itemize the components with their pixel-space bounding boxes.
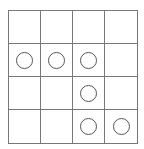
board-cell-r3-c3[interactable] [105,110,137,143]
circle-piece-icon [16,52,33,69]
board-cell-r1-c3[interactable] [105,44,137,77]
game-board [8,10,138,144]
board-cell-r2-c0[interactable] [9,77,41,110]
board-cell-r3-c0[interactable] [9,110,41,143]
board-cell-r0-c3[interactable] [105,11,137,44]
board-cell-r2-c2[interactable] [73,77,105,110]
board-cell-r1-c1[interactable] [41,44,73,77]
circle-piece-icon [80,52,97,69]
board-cell-r1-c2[interactable] [73,44,105,77]
board-cell-r0-c1[interactable] [41,11,73,44]
board-cell-r2-c3[interactable] [105,77,137,110]
board-cell-r3-c2[interactable] [73,110,105,143]
board-cell-r1-c0[interactable] [9,44,41,77]
board-cell-r0-c2[interactable] [73,11,105,44]
board-cell-r3-c1[interactable] [41,110,73,143]
circle-piece-icon [113,118,130,135]
circle-piece-icon [80,118,97,135]
board-cell-r2-c1[interactable] [41,77,73,110]
circle-piece-icon [80,85,97,102]
circle-piece-icon [48,52,65,69]
board-cell-r0-c0[interactable] [9,11,41,44]
